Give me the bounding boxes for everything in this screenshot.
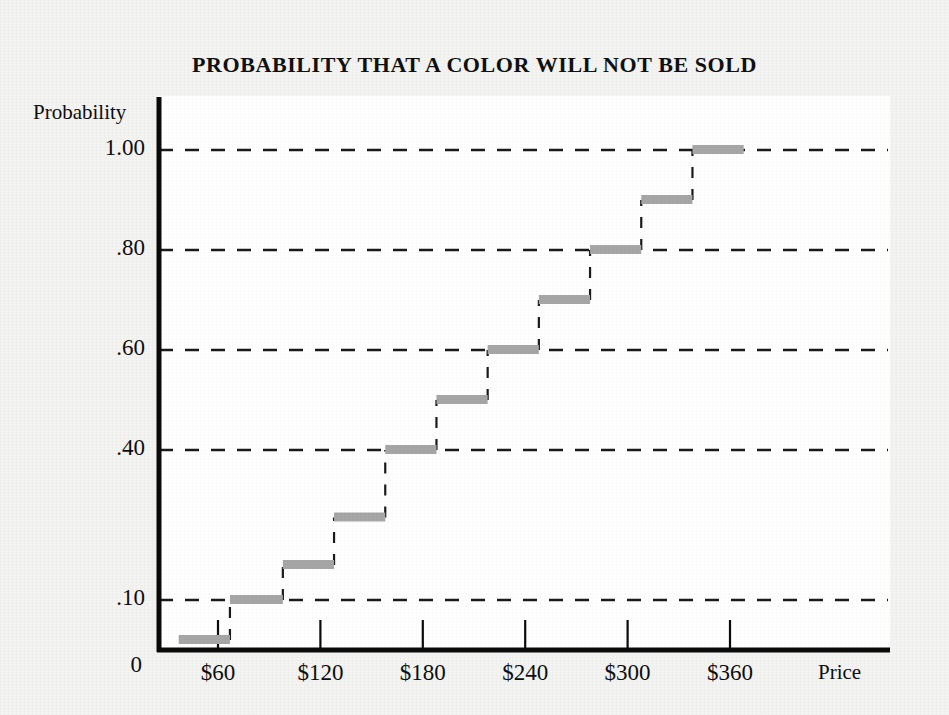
step-tread bbox=[230, 595, 283, 604]
x-tick-label: $120 bbox=[270, 660, 370, 686]
step-tread bbox=[488, 345, 539, 354]
y-tick-label: .40 bbox=[40, 435, 145, 461]
step-tread bbox=[334, 513, 385, 522]
step-tread bbox=[641, 195, 692, 204]
y-tick-label: 1.00 bbox=[40, 135, 145, 161]
step-tread bbox=[539, 295, 590, 304]
y-tick-label: .80 bbox=[40, 235, 145, 261]
step-tread bbox=[692, 145, 743, 154]
step-tread bbox=[436, 395, 487, 404]
x-tick-marks-group bbox=[218, 620, 730, 650]
step-tread bbox=[385, 445, 436, 454]
x-tick-label: $300 bbox=[578, 660, 678, 686]
step-tread bbox=[590, 245, 641, 254]
x-tick-label: $240 bbox=[475, 660, 575, 686]
y-axis-label: Probability bbox=[33, 100, 126, 125]
x-tick-label: $180 bbox=[373, 660, 473, 686]
x-axis-label: Price bbox=[818, 660, 861, 685]
y-tick-label: 0 bbox=[40, 652, 142, 678]
step-tread bbox=[283, 560, 334, 569]
gridlines-group bbox=[159, 150, 888, 600]
x-tick-label: $60 bbox=[168, 660, 268, 686]
step-treads-group bbox=[179, 145, 744, 644]
figure-container: PROBABILITY THAT A COLOR WILL NOT BE SOL… bbox=[0, 0, 949, 715]
x-tick-label: $360 bbox=[680, 660, 780, 686]
y-tick-label: .60 bbox=[40, 335, 145, 361]
y-tick-label: .10 bbox=[40, 585, 145, 611]
axis-lines-group bbox=[157, 97, 890, 652]
step-tread bbox=[179, 635, 230, 644]
